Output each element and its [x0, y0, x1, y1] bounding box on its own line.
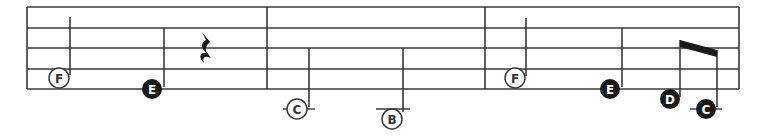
note-f-measure-1: F	[49, 68, 69, 88]
note-e-measure-3: E	[600, 79, 620, 99]
note-e-measure-1: E	[142, 79, 162, 99]
note-letter-label: C	[293, 103, 302, 117]
note-letter-label: C	[702, 103, 711, 117]
notes: FECBFEDC	[49, 68, 716, 129]
note-stems	[70, 17, 717, 112]
note-letter-label: F	[511, 72, 519, 86]
note-c-measure-3: C	[696, 99, 716, 119]
note-letter-label: B	[387, 113, 396, 127]
note-letter-label: E	[606, 83, 614, 97]
note-letter-label: E	[148, 83, 156, 97]
staff-lines	[27, 7, 739, 89]
note-b-measure-2: B	[382, 109, 402, 129]
note-letter-label: F	[55, 72, 63, 86]
note-f-measure-3: F	[505, 68, 525, 88]
note-letter-label: D	[665, 93, 675, 107]
music-staff: FECBFEDC	[0, 0, 759, 137]
note-c-measure-2: C	[287, 99, 307, 119]
note-d-measure-3: D	[660, 89, 680, 109]
